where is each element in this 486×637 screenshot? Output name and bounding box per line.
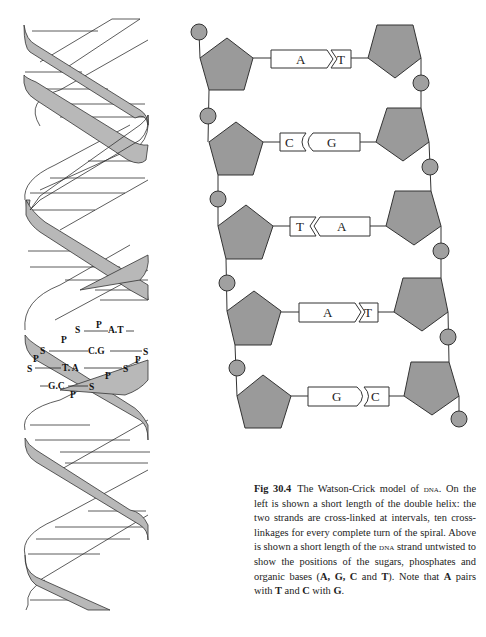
base-5-left: G [332,389,341,404]
phosphate-left-5 [229,360,245,376]
base-2-left: C [285,135,294,150]
helix-label-s1: S [75,325,80,335]
sugar-left-3 [218,205,273,259]
helix-label-s3r: S [123,364,128,374]
caption-part: and [357,571,381,582]
helix-label-pair-ta: T. A [62,363,79,373]
helix-label-p2: P [61,335,67,345]
helix-label-p3l: P [33,354,39,364]
caption-part: ). Note that [388,571,443,582]
sugar-left-1 [200,38,253,90]
base-pairs [271,50,389,406]
sugar-right-3 [386,191,441,245]
caption-part: T [275,585,282,596]
phosphate-left-2 [200,108,216,124]
sugar-right-4 [394,278,448,331]
helix-label-s2r: S [143,347,148,357]
phosphate-left-1 [191,24,207,40]
caption-body: The Watson-Crick model of dna. On the le… [254,483,476,596]
base-3-left: T [296,219,304,234]
caption-part: . [342,585,345,596]
caption-part: The Watson-Crick model of [297,483,423,494]
caption-part: dna [424,484,439,494]
base-3-right: A [337,219,347,234]
phosphate-right-2 [422,159,438,175]
phosphate-right-3 [433,243,449,259]
caption-part: dna [379,542,394,552]
base-1-left: A [296,52,306,67]
phosphate-left-4 [219,275,235,291]
base-4-right: T [364,305,372,320]
sugar-right-2 [376,108,429,161]
base-1-right: T [337,52,345,67]
helix-label-p1: P [96,320,102,330]
caption-part: A, G, C [320,571,357,582]
helix-label-pair-gc: G.C [48,381,65,391]
helix-label-p4: P [105,371,111,381]
helix-front-ribbon [24,25,148,610]
helix-label-pair-at: A.T [108,325,124,335]
sugar-left-2 [209,122,263,175]
phosphate-right-1 [413,75,429,91]
helix-label-pair-cg: C.G [88,346,105,356]
base-2-right: G [327,135,336,150]
cropped-next-line [22,630,462,637]
caption-part: and [282,585,302,596]
helix-label-s2: S [40,346,45,356]
phosphate-left-3 [210,191,226,207]
sugar-right-1 [368,25,421,78]
caption-part: G [333,585,341,596]
phosphate-right-5 [451,411,467,427]
double-helix-diagram: S P A.T P S C.G S P S T. A S P G.C S P P [0,0,180,637]
base-4-left: A [323,305,333,320]
helix-label-p4b: P [70,390,76,400]
base-5-right: C [371,389,380,404]
sugar-right-5 [404,362,459,415]
sugar-left-5 [237,375,291,428]
helix-label-s4: S [89,382,94,392]
caption-part: with [310,585,334,596]
phosphate-right-4 [440,329,456,345]
untwisted-dna-ladder: A T C G T A A T G C [180,0,486,460]
figure-caption: Fig 30.4The Watson-Crick model of dna. O… [254,482,476,599]
caption-part: C [302,585,310,596]
figure-number: Fig 30.4 [254,483,291,494]
helix-label-s3l: S [27,364,32,374]
sugar-left-4 [227,291,281,345]
helix-label-p3r: P [135,355,141,365]
